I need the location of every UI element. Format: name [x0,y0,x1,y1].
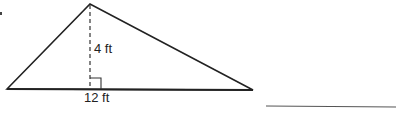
triangle-outline [7,4,253,90]
height-label: 4 ft [94,42,112,55]
right-angle-marker [90,78,101,89]
base-label: 12 ft [84,91,109,104]
answer-line[interactable] [266,106,396,107]
triangle-base [7,89,253,90]
stray-mark [0,12,2,15]
triangle-diagram [0,0,397,114]
